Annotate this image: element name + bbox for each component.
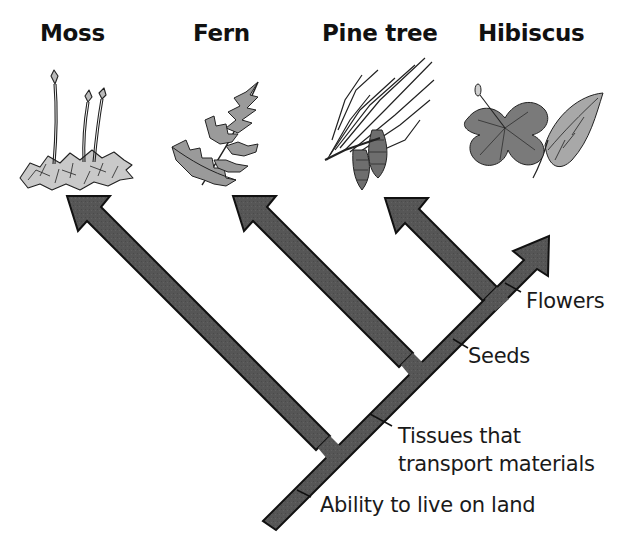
taxon-label-fern: Fern	[193, 20, 250, 46]
pine-branch-illustration-icon	[325, 58, 434, 190]
trait-label-tissues-line1: Tissues that	[398, 423, 521, 450]
trait-label-tissues-line2: transport materials	[398, 451, 595, 478]
taxon-label-hibiscus: Hibiscus	[478, 20, 584, 46]
main-trunk-arrow	[263, 236, 549, 530]
pine-branch-arrow	[385, 198, 497, 301]
taxon-label-moss: Moss	[40, 20, 105, 46]
fern-illustration-icon	[172, 82, 258, 186]
trait-label-flowers: Flowers	[526, 288, 604, 315]
taxon-label-pine-tree: Pine tree	[322, 20, 438, 46]
cladogram-diagram: Moss Fern Pine tree Hibiscus Flowers See…	[0, 0, 631, 542]
fern-branch-arrow	[233, 196, 413, 367]
trait-label-seeds: Seeds	[468, 343, 530, 370]
moss-illustration-icon	[20, 70, 133, 190]
trait-label-land: Ability to live on land	[320, 492, 535, 519]
hibiscus-flower-illustration-icon	[464, 84, 603, 178]
